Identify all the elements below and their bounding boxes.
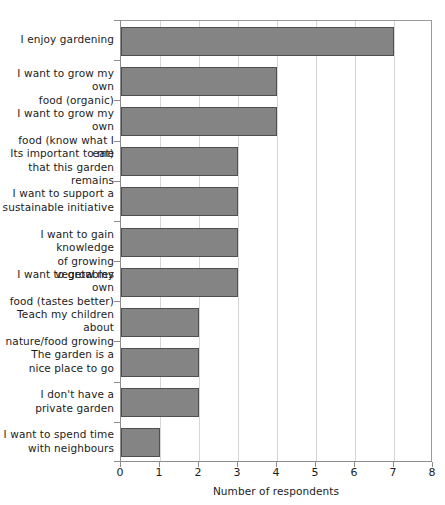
bar [121, 348, 199, 377]
category-label-line: food (organic) [0, 94, 114, 108]
bar-row [121, 67, 431, 96]
x-axis-tick-labels: 012345678 [0, 466, 445, 482]
category-label-line: I want to gain knowledge [0, 228, 114, 255]
category-label-line: private garden [0, 402, 114, 416]
x-axis-tick-label: 7 [378, 466, 408, 480]
bar [121, 308, 199, 337]
category-label-line: with neighbours [0, 442, 114, 456]
bar [121, 67, 277, 96]
category-axis-labels: I enjoy gardeningI want to grow my ownfo… [0, 20, 114, 462]
category-label-line: I want to grow my own [0, 107, 114, 134]
category-label-line: nice place to go [0, 362, 114, 376]
bar-row [121, 147, 431, 176]
category-label-line: sustainable initiative [0, 201, 114, 215]
category-label-line: food (tastes better) [0, 295, 114, 309]
bar [121, 268, 238, 297]
category-label: Its important to methat this garden rema… [0, 147, 114, 188]
category-label-line: The garden is a [0, 348, 114, 362]
category-label: I enjoy gardening [0, 33, 114, 47]
bar-row [121, 348, 431, 377]
category-label: I want to grow my ownfood (tastes better… [0, 268, 114, 309]
bar [121, 147, 238, 176]
bar [121, 428, 160, 457]
bar-series [121, 21, 431, 461]
bar [121, 187, 238, 216]
bar-row [121, 187, 431, 216]
category-label-line: nature/food growing [0, 335, 114, 349]
x-axis-tick-label: 8 [417, 466, 445, 480]
x-axis-tick-label: 6 [339, 466, 369, 480]
bar [121, 27, 394, 56]
category-label-line: I want to spend time [0, 428, 114, 442]
x-axis-tick-label: 4 [261, 466, 291, 480]
category-label-line: that this garden remains [0, 161, 114, 188]
plot-area [120, 20, 432, 462]
bar-chart: I enjoy gardeningI want to grow my ownfo… [0, 0, 445, 505]
category-label: I want to support asustainable initiativ… [0, 187, 114, 214]
x-axis-tick-label: 0 [105, 466, 135, 480]
category-label-line: Its important to me [0, 147, 114, 161]
category-label: The garden is anice place to go [0, 348, 114, 375]
category-label-line: I want to grow my own [0, 67, 114, 94]
category-label: I want to spend timewith neighbours [0, 428, 114, 455]
bar [121, 388, 199, 417]
category-label-line: I don't have a [0, 388, 114, 402]
category-label-line: Teach my children about [0, 308, 114, 335]
x-axis-tick-label: 3 [222, 466, 252, 480]
category-label: Teach my children aboutnature/food growi… [0, 308, 114, 349]
bar [121, 228, 238, 257]
category-label-line: I want to grow my own [0, 268, 114, 295]
bar-row [121, 228, 431, 257]
bar [121, 107, 277, 136]
x-axis-tick-label: 1 [144, 466, 174, 480]
category-label: I want to grow my ownfood (organic) [0, 67, 114, 108]
bar-row [121, 27, 431, 56]
category-label-line: I enjoy gardening [0, 33, 114, 47]
x-axis-tick-label: 2 [183, 466, 213, 480]
x-axis-title: Number of respondents [120, 484, 432, 498]
bar-row [121, 107, 431, 136]
bar-row [121, 388, 431, 417]
bar-row [121, 268, 431, 297]
x-axis-tick-label: 5 [300, 466, 330, 480]
bar-row [121, 308, 431, 337]
category-label: I don't have aprivate garden [0, 388, 114, 415]
bar-row [121, 428, 431, 457]
category-label-line: I want to support a [0, 187, 114, 201]
